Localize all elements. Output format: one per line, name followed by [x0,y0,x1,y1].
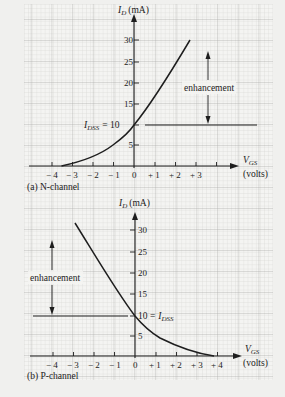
x-axis-unit-a: (volts) [243,169,268,180]
svg-text:− 2: − 2 [88,360,100,370]
svg-text:− 4: − 4 [46,170,58,180]
enhancement-label-b: enhancement [30,273,80,283]
svg-text:− 3: − 3 [66,170,78,180]
svg-text:25: 25 [138,247,148,257]
svg-text:0: 0 [132,170,137,180]
svg-text:+ 2: + 2 [170,360,182,370]
svg-text:30: 30 [138,225,148,235]
enhancement-label-a: enhancement [184,83,234,93]
svg-text:+ 2: + 2 [169,170,181,180]
svg-text:+ 1: + 1 [148,170,160,180]
svg-text:5: 5 [138,331,143,341]
svg-text:15: 15 [124,99,134,109]
caption-b: (b) P-channel [27,371,79,382]
svg-text:30: 30 [124,35,134,45]
svg-text:0: 0 [133,360,138,370]
grid-major [24,4,273,380]
svg-text:25: 25 [124,57,134,67]
caption-a: (a) N-channel [27,182,80,193]
svg-text:− 1: − 1 [108,170,120,180]
svg-text:15: 15 [138,289,148,299]
svg-text:5: 5 [129,140,134,150]
svg-text:− 3: − 3 [67,360,79,370]
svg-text:− 2: − 2 [87,170,99,180]
svg-text:− 4: − 4 [46,360,58,370]
x-axis-unit-b: (volts) [243,358,268,369]
figure-page: − 4 − 3 − 2 − 1 0 + 1 + 2 + 3 30 25 20 1… [0,0,285,397]
svg-text:+ 1: + 1 [149,360,161,370]
svg-text:+ 3: + 3 [190,170,202,180]
svg-text:20: 20 [124,78,134,88]
figure-svg: − 4 − 3 − 2 − 1 0 + 1 + 2 + 3 30 25 20 1… [0,0,285,397]
svg-text:20: 20 [138,268,148,278]
svg-text:+ 4: + 4 [211,360,223,370]
svg-text:− 1: − 1 [109,360,121,370]
x-tick-labels-b: − 4 − 3 − 2 − 1 0 + 1 + 2 + 3 + 4 [46,360,223,370]
svg-text:+ 3: + 3 [191,360,203,370]
